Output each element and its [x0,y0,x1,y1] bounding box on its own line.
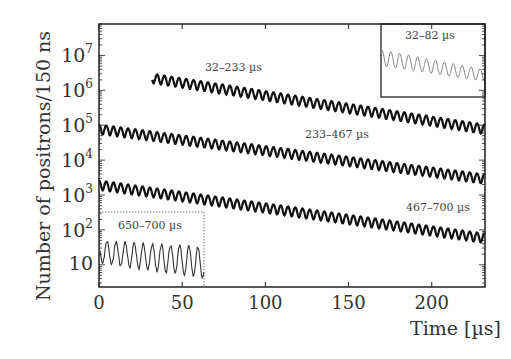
y-tick-label: 105 [61,112,93,136]
x-tick-label: 100 [248,292,282,313]
x-tick-label: 200 [415,292,449,313]
y-tick-label: 103 [61,182,93,206]
y-tick-label: 104 [61,147,93,171]
y-axis-label: Number of positrons/150 ns [32,31,54,301]
series-label-467-700: 467–700 µs [406,201,470,214]
series-line-1 [99,125,485,184]
inset-label-650-700: 650–700 µs [118,219,182,232]
inset-label-32-82: 32–82 µs [405,29,455,42]
y-tick-label: 106 [61,77,93,101]
x-axis-label: Time [µs] [410,317,501,339]
x-tick-label: 0 [93,292,104,313]
y-tick-label: 107 [61,42,93,66]
series-label-32-233: 32–233 µs [205,61,262,74]
series-label-233-467: 233–467 µs [305,128,369,141]
x-tick-label: 50 [171,292,194,313]
y-tick-label: 10 [69,252,93,274]
x-tick-label: 150 [331,292,365,313]
y-tick-label: 102 [61,217,93,241]
